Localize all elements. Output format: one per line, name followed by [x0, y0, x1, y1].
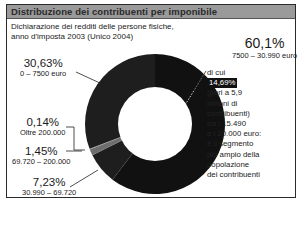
donut-hole [118, 87, 192, 161]
label-segment-2: 30,63% 0 – 7500 euro [20, 57, 66, 78]
label-segment-5: 7,23% 30.990 – 69.720 [22, 176, 76, 197]
label-segment-3: 0,14% Oltre 200.000 [20, 116, 65, 137]
highlight-badge: 14,69% [207, 78, 237, 88]
label-segment-1: 60,1% 7500 – 30.990 euro [232, 36, 297, 60]
annotation-note: di cui 14,69% (pari a 5,9 milioni di con… [207, 68, 261, 180]
leader-line-s2 [76, 72, 102, 84]
label-segment-4: 1,45% 69.720 – 200.000 [12, 145, 70, 166]
